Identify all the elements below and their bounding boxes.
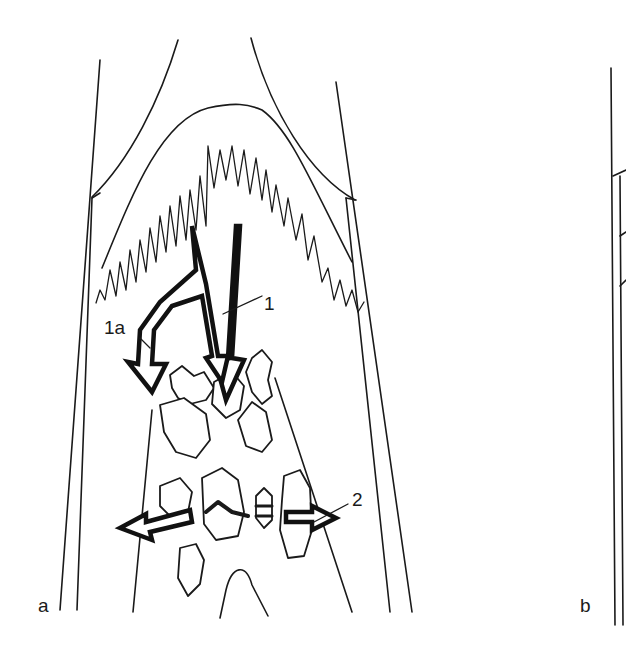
label-1: 1 [264,293,275,314]
panel-label-b: b [580,595,591,616]
epiphysis-outline [92,38,355,268]
growth-plate [96,146,364,312]
panel-b-cortex [611,68,626,625]
panel-label-a: a [38,595,49,616]
bone-fragments [160,350,312,596]
label-2: 2 [352,489,363,510]
arrow-1a [128,226,228,392]
diagram-canvas: 1 1a 2 a b [0,0,626,656]
label-1a: 1a [104,317,126,338]
